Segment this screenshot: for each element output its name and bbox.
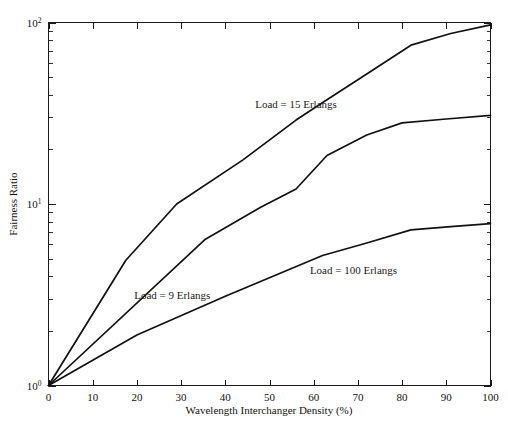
chart-canvas: 0102030405060708090100 100101102 Load = …: [0, 0, 508, 430]
plot-frame: [49, 23, 491, 386]
x-tick-label-60: 60: [308, 391, 320, 403]
x-tick-label-30: 30: [176, 391, 188, 403]
x-tick-label-0: 0: [46, 391, 52, 403]
y-axis-tick-labels: 100101102: [27, 16, 42, 392]
y-tick-label-10^2: 102: [27, 16, 42, 29]
x-tick-label-20: 20: [131, 391, 143, 403]
data-curve-series-1: [49, 115, 491, 385]
y-axis-title: Fairness Ratio: [7, 172, 19, 236]
series-annotation-1: Load = 9 Erlangs: [134, 289, 210, 301]
y-tick-label-10^1: 101: [27, 197, 42, 210]
x-axis-major-ticks: [50, 23, 492, 386]
x-tick-label-50: 50: [264, 391, 276, 403]
series-annotation-0: Load = 15 Erlangs: [255, 98, 337, 110]
x-axis-title: Wavelength Interchanger Density (%): [186, 404, 353, 417]
y-axis-major-ticks: [49, 24, 491, 387]
y-axis-minor-ticks: [49, 32, 491, 332]
x-tick-label-10: 10: [87, 391, 99, 403]
x-tick-label-90: 90: [441, 391, 453, 403]
x-tick-label-70: 70: [352, 391, 364, 403]
data-series-group: [49, 25, 491, 386]
y-tick-label-10^0: 100: [27, 379, 42, 392]
x-tick-label-100: 100: [482, 391, 499, 403]
series-annotation-2: Load = 100 Erlangs: [310, 264, 397, 276]
x-axis-tick-labels: 0102030405060708090100: [46, 391, 500, 403]
x-tick-label-80: 80: [397, 391, 409, 403]
chart-figure: 0102030405060708090100 100101102 Load = …: [0, 0, 508, 430]
series-annotations-group: Load = 15 ErlangsLoad = 9 ErlangsLoad = …: [134, 98, 397, 301]
x-tick-label-40: 40: [220, 391, 232, 403]
data-curve-series-0: [49, 25, 491, 386]
data-curve-series-2: [49, 224, 491, 386]
